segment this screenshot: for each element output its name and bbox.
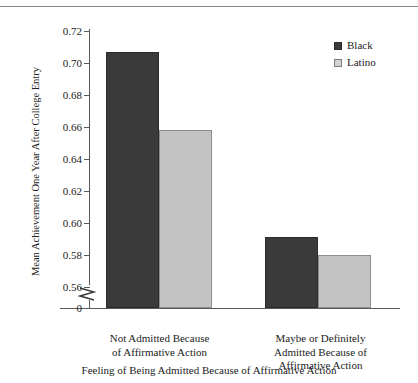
y-tick-label-4-wrap: 0.64 xyxy=(36,154,82,165)
x-category-label-1-line-1: Admitted Because of xyxy=(243,346,398,360)
legend-swatch-latino-icon xyxy=(334,59,342,67)
y-tick-mark-4 xyxy=(84,159,90,160)
y-axis-title: Mean Achievement One Year After College … xyxy=(30,42,41,302)
bar-latino-maybe-admitted[interactable] xyxy=(318,255,371,308)
y-tick-label-0: 0.72 xyxy=(40,26,82,37)
y-tick-mark-5 xyxy=(84,191,90,192)
axis-break-icon xyxy=(78,285,100,305)
x-category-label-0-line-0: Not Admitted Because xyxy=(82,332,237,346)
legend: Black Latino xyxy=(334,38,414,72)
y-tick-mark-7 xyxy=(84,255,90,256)
y-tick-label-9: 0 xyxy=(40,303,82,314)
y-tick-label-6: 0.60 xyxy=(40,218,82,229)
legend-item-black[interactable]: Black xyxy=(334,38,414,53)
bar-latino-not-admitted[interactable] xyxy=(159,130,212,308)
y-tick-label-6-wrap: 0.60 xyxy=(36,218,82,229)
y-tick-label-8: 0.56 xyxy=(40,282,82,293)
x-category-label-0-line-1: of Affirmative Action xyxy=(82,346,237,360)
y-tick-label-5-wrap: 0.62 xyxy=(36,186,82,197)
y-tick-label-0-wrap: 0.72 xyxy=(36,26,82,37)
x-axis-line xyxy=(60,308,400,309)
x-category-label-0: Not Admitted Because of Affirmative Acti… xyxy=(82,332,237,359)
y-tick-label-3: 0.66 xyxy=(40,122,82,133)
x-category-label-1-line-0: Maybe or Definitely xyxy=(243,332,398,346)
y-tick-label-2: 0.68 xyxy=(40,90,82,101)
y-tick-label-3-wrap: 0.66 xyxy=(36,122,82,133)
y-tick-mark-6 xyxy=(84,223,90,224)
y-axis-line xyxy=(89,29,90,285)
legend-item-latino[interactable]: Latino xyxy=(334,55,414,70)
legend-label-latino: Latino xyxy=(347,57,376,68)
y-tick-label-9-wrap: 0 xyxy=(36,303,82,314)
y-tick-mark-0 xyxy=(84,31,90,32)
y-tick-label-7: 0.58 xyxy=(40,250,82,261)
y-tick-mark-9 xyxy=(84,308,90,309)
y-tick-label-8-wrap: 0.56 xyxy=(36,282,82,293)
y-tick-label-1: 0.70 xyxy=(40,58,82,69)
y-tick-label-4: 0.64 xyxy=(40,154,82,165)
bar-black-maybe-admitted[interactable] xyxy=(265,237,318,308)
y-tick-label-5: 0.62 xyxy=(40,186,82,197)
y-tick-label-1-wrap: 0.70 xyxy=(36,58,82,69)
y-tick-mark-2 xyxy=(84,95,90,96)
legend-label-black: Black xyxy=(347,40,373,51)
chart-figure: 0.72 0.70 0.68 0.66 0.64 0.62 0.60 0.58 xyxy=(0,0,418,383)
y-tick-mark-3 xyxy=(84,127,90,128)
y-tick-label-2-wrap: 0.68 xyxy=(36,90,82,101)
y-tick-label-7-wrap: 0.58 xyxy=(36,250,82,261)
x-axis-title: Feeling of Being Admitted Because of Aff… xyxy=(0,364,418,377)
legend-swatch-black-icon xyxy=(334,42,342,50)
bar-black-not-admitted[interactable] xyxy=(106,52,159,308)
y-tick-mark-1 xyxy=(84,63,90,64)
